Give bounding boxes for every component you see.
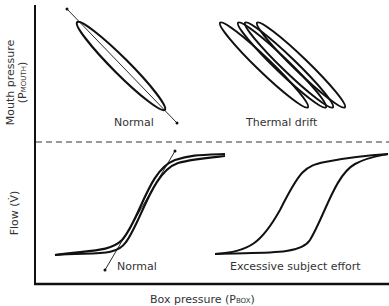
- caption-bottom-left: Normal: [117, 260, 157, 273]
- normal-flow-loop: [55, 150, 225, 272]
- x-axis-label-box-pressure: Box pressure (PBOX): [150, 293, 255, 306]
- y-axis-label-mouth-pressure: Mouth pressure (PMOUTH): [5, 38, 30, 128]
- excessive-effort-loop: [215, 154, 388, 254]
- caption-top-right: Thermal drift: [246, 116, 317, 129]
- caption-top-left: Normal: [114, 116, 154, 129]
- y-axis-label-flow: Flow (V̇): [9, 183, 21, 243]
- thermal-drift-loops: [215, 18, 349, 113]
- normal-pressure-loop: [66, 8, 179, 125]
- caption-bottom-right: Excessive subject effort: [230, 260, 361, 273]
